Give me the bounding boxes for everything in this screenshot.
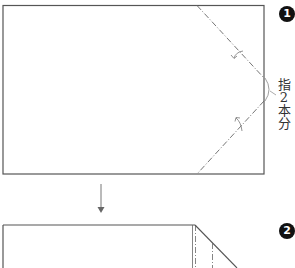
paper-step-2-diagonal <box>195 225 237 268</box>
fold-diagram <box>0 0 295 268</box>
measure-bracket <box>265 78 269 101</box>
paper-step-1 <box>3 6 264 175</box>
step-arrow-down-icon <box>98 207 105 213</box>
fold-line-upper <box>197 6 264 79</box>
width-annotation-label: 指 2 本 分 <box>276 78 292 130</box>
fold-arrow-upper-icon <box>231 51 243 59</box>
annotation-char: 分 <box>276 117 292 130</box>
step-number-badge-1: 1 <box>279 6 295 22</box>
fold-line-lower <box>197 101 264 174</box>
step-number-badge-2: 2 <box>279 223 295 239</box>
